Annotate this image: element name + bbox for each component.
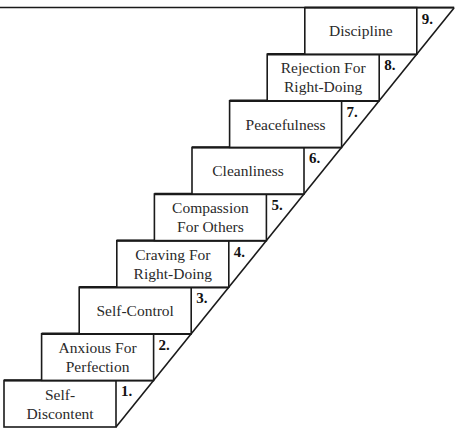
step-number-1: 1. xyxy=(121,383,132,400)
step-label-9: Discipline xyxy=(305,8,417,55)
step-label-7: Peacefulness xyxy=(230,101,342,148)
step-number-7: 7. xyxy=(347,104,358,121)
step-number-8: 8. xyxy=(384,57,395,74)
step-number-9: 9. xyxy=(422,11,433,28)
step-label-1: Self- Discontent xyxy=(4,380,116,427)
step-number-5: 5. xyxy=(271,197,282,214)
step-number-3: 3. xyxy=(196,290,207,307)
step-label-3: Self-Control xyxy=(79,287,191,334)
step-label-8: Rejection For Right-Doing xyxy=(267,54,379,101)
step-number-6: 6. xyxy=(309,150,320,167)
step-number-4: 4. xyxy=(234,244,245,261)
step-label-2: Anxious For Perfection xyxy=(42,334,154,381)
step-label-6: Cleanliness xyxy=(192,147,304,194)
step-number-2: 2. xyxy=(159,337,170,354)
step-label-5: Compassion For Others xyxy=(154,194,266,241)
step-label-4: Craving For Right-Doing xyxy=(117,241,229,288)
